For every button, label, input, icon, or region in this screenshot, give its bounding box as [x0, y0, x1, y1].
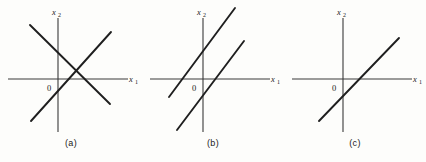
data-line-ascending — [31, 32, 111, 121]
y-axis-label: x — [196, 7, 201, 17]
panel-a-plot: x 2 x 1 0 — [0, 0, 142, 140]
panel-c-caption: (c) — [284, 138, 426, 148]
panel-a-caption: (a) — [0, 138, 142, 148]
data-line-lower-parallel — [177, 41, 244, 130]
origin-label: 0 — [332, 83, 336, 93]
panel-b-plot: x 2 x 1 0 — [142, 0, 284, 140]
panel-a: x 2 x 1 0 (a) — [0, 0, 142, 162]
x-axis-label: x — [412, 74, 417, 84]
origin-label: 0 — [47, 83, 51, 93]
x-axis-label-subscript: 1 — [419, 79, 422, 85]
y-axis-label-subscript: 2 — [203, 12, 206, 18]
panel-c-plot: x 2 x 1 0 — [284, 0, 426, 140]
data-line-upper-parallel — [169, 8, 235, 97]
y-axis-label-subscript: 2 — [58, 12, 61, 18]
origin-label: 0 — [192, 83, 196, 93]
panel-b-caption: (b) — [142, 138, 284, 148]
x-axis-label: x — [270, 74, 275, 84]
y-axis-label: x — [336, 7, 341, 17]
figure-three-line-cases: x 2 x 1 0 (a) x 2 x 1 0 (b) — [0, 0, 426, 162]
panel-b: x 2 x 1 0 (b) — [142, 0, 284, 162]
y-axis-label-subscript: 2 — [343, 12, 346, 18]
panel-c: x 2 x 1 0 (c) — [284, 0, 426, 162]
x-axis-label: x — [128, 74, 133, 84]
data-line-descending — [30, 25, 110, 104]
x-axis-label-subscript: 1 — [277, 79, 280, 85]
x-axis-label-subscript: 1 — [135, 79, 138, 85]
y-axis-label: x — [51, 7, 56, 17]
